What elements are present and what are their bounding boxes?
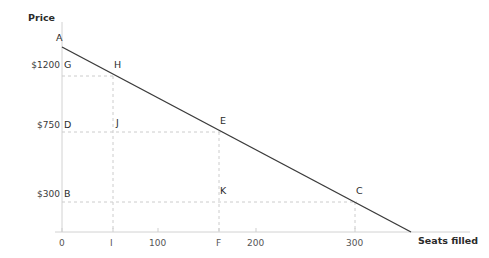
y-axis-title: Price: [28, 13, 55, 23]
x-tick-label-I: I: [110, 238, 113, 248]
point-label-J: J: [116, 118, 119, 128]
x-tick-label-200: 200: [247, 238, 264, 248]
y-tick-label-750: $750: [18, 120, 60, 130]
demand-curve-line: [62, 47, 411, 232]
point-label-K: K: [220, 186, 226, 196]
point-label-B: B: [64, 189, 71, 199]
point-label-D: D: [64, 120, 71, 130]
x-axis-title: Seats filled: [418, 236, 478, 246]
chart-plot-area: [0, 0, 489, 258]
point-label-A: A: [56, 33, 63, 43]
point-label-G: G: [64, 60, 71, 70]
x-tick-label-F: F: [216, 238, 221, 248]
y-tick-label-300: $300: [18, 189, 60, 199]
x-tick-label-300: 300: [346, 238, 363, 248]
point-label-C: C: [356, 186, 363, 196]
y-tick-label-1200: $1200: [18, 60, 60, 70]
x-tick-label-0: 0: [59, 238, 65, 248]
x-tick-label-100: 100: [149, 238, 166, 248]
demand-curve-chart: Price Seats filled $1200 $750 $300 G D B…: [0, 0, 489, 258]
point-label-H: H: [114, 60, 121, 70]
point-label-E: E: [220, 116, 226, 126]
